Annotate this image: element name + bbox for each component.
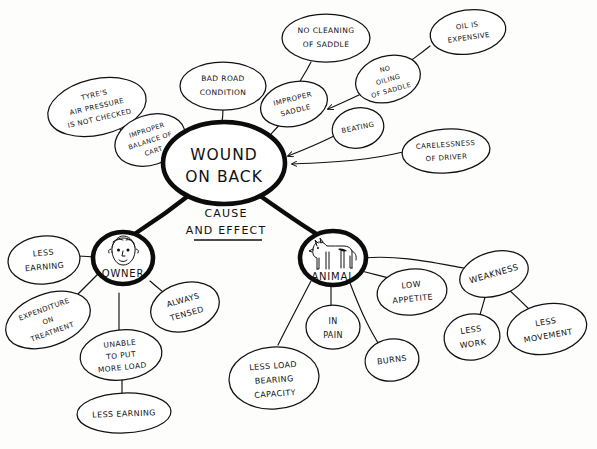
link-animal-to-weakness <box>363 257 464 268</box>
node-low-appetite[interactable]: LOW APPETITE <box>375 265 449 318</box>
node-badroad-line-2: CONDITION <box>200 88 247 97</box>
node-beating[interactable]: BEATING <box>328 103 387 153</box>
link-nooiling-to-saddle <box>328 95 359 109</box>
node-less-earning-top[interactable]: LESS EARNING <box>6 233 82 287</box>
node-in-pain[interactable]: IN PAIN <box>306 305 360 349</box>
link-beating-to-center <box>288 136 334 156</box>
node-unable-to-put-more-load[interactable]: UNABLE TO PUT MORE LOAD <box>78 326 165 384</box>
node-center-line-1: WOUND <box>190 146 257 164</box>
caption-line-2: AND EFFECT <box>186 224 267 237</box>
node-burns[interactable]: BURNS <box>362 335 421 384</box>
node-center-line-2: ON BACK <box>185 168 263 186</box>
node-less-earning-top-line-1: LESS <box>32 248 54 259</box>
node-nocleaning-line-1: NO CLEANING <box>298 26 355 35</box>
node-oil-is-expensive[interactable]: OIL IS EXPENSIVE <box>427 5 508 59</box>
node-owner-label: OWNER <box>102 268 145 279</box>
node-no-cleaning-of-saddle[interactable]: NO CLEANING OF SADDLE <box>282 14 370 62</box>
node-animal[interactable]: ANIMAL <box>300 231 366 285</box>
node-carelessness-of-driver[interactable]: CARELESSNESS OF DRIVER <box>401 126 492 176</box>
caption-line-1: CAUSE <box>204 207 247 220</box>
mindmap-svg: TYRE'S AIR PRESSURE IS NOT CHECKED IMPRO… <box>0 0 597 449</box>
node-weakness[interactable]: WEAKNESS <box>454 243 533 305</box>
node-less-work[interactable]: LESS WORK <box>441 310 503 363</box>
node-animal-label: ANIMAL <box>311 271 354 282</box>
node-badroad-line-1: BAD ROAD <box>201 74 245 83</box>
node-owner[interactable]: OWNER <box>93 232 153 284</box>
node-always-tensed[interactable]: ALWAYS TENSED <box>145 274 226 339</box>
node-less-load-bearing-capacity[interactable]: LESS LOAD BEARING CAPACITY <box>227 344 321 412</box>
node-improper-saddle[interactable]: IMPROPER SADDLE <box>256 74 333 133</box>
link-carelessness-to-center <box>292 152 403 164</box>
node-less-movement[interactable]: LESS MOVEMENT <box>503 297 590 360</box>
link-animal-to-less-load-capacity <box>278 281 311 345</box>
node-less-earning-bottom[interactable]: LESS EARNING <box>76 391 171 434</box>
mindmap-canvas: TYRE'S AIR PRESSURE IS NOT CHECKED IMPRO… <box>0 0 597 449</box>
link-center-to-owner <box>136 193 192 233</box>
cause-and-effect-caption: CAUSE AND EFFECT <box>186 207 267 240</box>
node-nocleaning-line-2: OF SADDLE <box>303 40 350 49</box>
node-in-pain-line-1: IN <box>328 317 337 326</box>
node-bad-road-condition[interactable]: BAD ROAD CONDITION <box>180 62 266 110</box>
node-in-pain-line-2: PAIN <box>323 331 343 340</box>
node-center-wound-on-back[interactable]: WOUND ON BACK <box>163 122 285 204</box>
